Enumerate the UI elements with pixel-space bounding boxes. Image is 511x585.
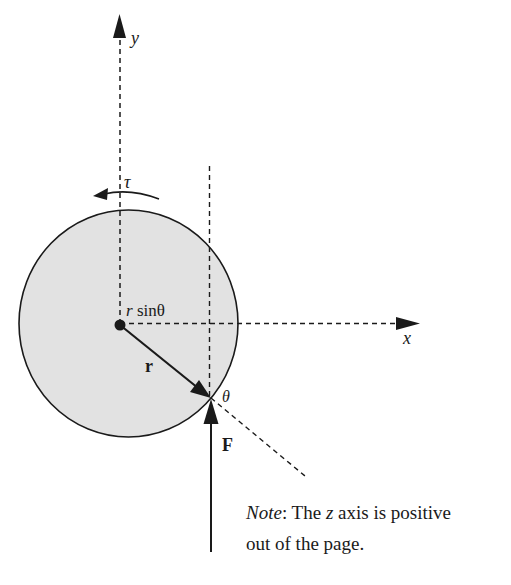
- angle-label: θ: [222, 388, 230, 405]
- torque-diagram: y x τ r sinθ r θ F Note: The z axis is p…: [0, 0, 511, 585]
- note-line-2: out of the page.: [246, 533, 364, 554]
- moment-arm-label: r sinθ: [126, 301, 165, 320]
- torque-arc: [104, 192, 159, 199]
- force-label: F: [222, 435, 233, 455]
- x-axis-label: x: [402, 328, 411, 348]
- y-axis-label: y: [129, 28, 139, 48]
- torque-arrow-icon: [93, 188, 108, 200]
- r-vector-label: r: [145, 356, 153, 376]
- note-line-1: Note: The z axis is positive: [245, 502, 451, 523]
- center-dot: [115, 320, 126, 331]
- torque-label: τ: [124, 172, 131, 192]
- y-axis-arrow-icon: [113, 14, 126, 38]
